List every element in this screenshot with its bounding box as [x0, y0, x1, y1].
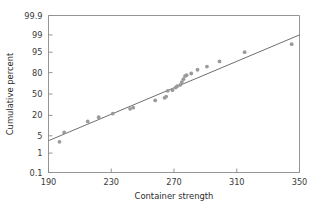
data-point [86, 120, 90, 124]
y-tick-label: 99 [32, 30, 42, 40]
x-tick-label: 350 [292, 177, 308, 187]
data-point [62, 131, 66, 135]
x-tick-label: 230 [103, 177, 119, 187]
data-point [131, 106, 135, 110]
data-point [166, 89, 170, 93]
y-tick-label: 1 [37, 148, 42, 158]
data-point [97, 115, 101, 119]
y-tick-label: 80 [32, 68, 42, 78]
x-axis-title: Container strength [135, 191, 214, 201]
data-point [171, 88, 175, 92]
y-tick-label: 50 [32, 89, 42, 99]
y-axis-title: Cumulative percent [5, 52, 15, 135]
y-tick-label: 99.9 [24, 11, 42, 21]
data-point [153, 99, 157, 103]
y-tick-label: 20 [32, 110, 42, 120]
data-point [218, 60, 222, 64]
data-point [58, 140, 62, 144]
normal-probability-plot: 0.115205080959999.9190230270310350Contai… [0, 0, 314, 204]
y-tick-label: 5 [37, 131, 42, 141]
x-tick-label: 190 [41, 177, 57, 187]
x-tick-label: 310 [229, 177, 245, 187]
y-tick-label: 95 [32, 47, 42, 57]
data-point [185, 73, 189, 77]
x-tick-label: 270 [166, 177, 182, 187]
data-point [189, 72, 193, 76]
data-point [111, 112, 115, 116]
data-point [164, 95, 168, 99]
data-point [243, 50, 247, 54]
data-point [196, 68, 200, 72]
data-point [290, 42, 294, 46]
plot-frame [49, 16, 300, 173]
chart-canvas: 0.115205080959999.9190230270310350Contai… [0, 0, 314, 204]
data-point [205, 65, 209, 69]
